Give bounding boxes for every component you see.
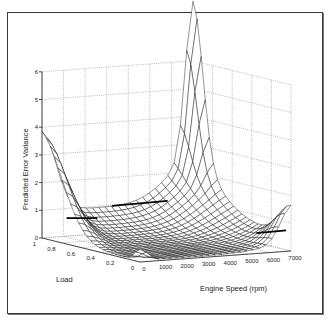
svg-text:5: 5 [35,97,39,103]
svg-text:0: 0 [142,266,146,272]
svg-text:3: 3 [35,152,39,158]
y-axis-label: Load [56,275,73,284]
svg-text:1000: 1000 [159,264,173,270]
surface-mesh [42,1,291,259]
svg-text:0: 0 [131,265,135,271]
svg-text:0.4: 0.4 [86,255,95,261]
z-axis-label: Predicted Error Variance [21,128,30,210]
svg-text:0.2: 0.2 [106,260,115,266]
svg-text:2000: 2000 [180,263,194,269]
svg-text:4: 4 [35,124,39,130]
x-axis-label: Engine Speed (rpm) [200,284,268,293]
svg-text:3000: 3000 [202,261,216,267]
svg-text:4000: 4000 [224,260,238,266]
svg-text:7000: 7000 [288,255,302,261]
svg-text:5000: 5000 [245,258,259,264]
svg-text:0.6: 0.6 [67,251,76,257]
svg-text:6: 6 [35,69,39,75]
surface-plot: 012345600.20.40.60.810100020003000400050… [0,0,331,321]
svg-text:0.8: 0.8 [47,246,56,252]
svg-text:2: 2 [35,180,39,186]
svg-text:6000: 6000 [267,257,281,263]
svg-text:1: 1 [33,241,37,247]
svg-text:1: 1 [35,207,39,213]
